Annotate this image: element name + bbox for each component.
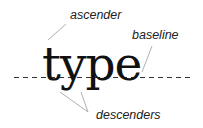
ascender-label: ascender [70,9,121,22]
sample-word: type [42,40,141,87]
typography-diagram: ascender baseline type descenders [0,0,203,128]
baseline-pointer-line [142,46,152,72]
descender-pointer-line-y [60,92,88,112]
descenders-label: descenders [96,109,161,122]
